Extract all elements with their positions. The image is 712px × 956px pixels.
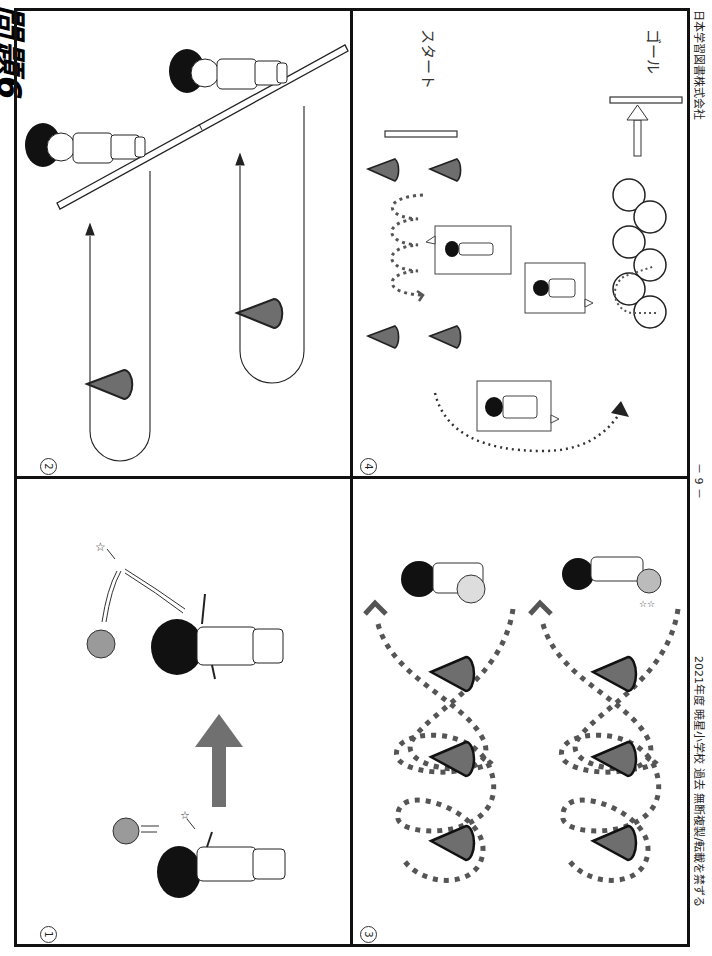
run-path-2 (236, 106, 304, 383)
cone-icon (87, 370, 132, 399)
ball-trajectory (102, 549, 185, 622)
cone-icon (368, 159, 399, 181)
zigzag-path (392, 195, 423, 295)
panel-1-illustration: ☆ ☆ (17, 479, 350, 946)
child-throwing (151, 594, 283, 679)
child-dribbling-2 (562, 557, 661, 593)
cone-icon (237, 299, 282, 328)
cone-icon (430, 159, 461, 181)
cone-icon (593, 657, 636, 691)
cone-icon (431, 657, 474, 691)
run-path-1 (86, 171, 150, 461)
panel-4-illustration: スタート (353, 11, 690, 476)
footer-page-number: － 9 － (692, 463, 708, 499)
hoops (613, 179, 666, 328)
cone-icon (430, 326, 461, 348)
child-catching (157, 832, 285, 898)
start-line (385, 131, 457, 137)
panel-2-illustration (17, 11, 350, 476)
path-arrowhead (365, 603, 386, 614)
goal-line (610, 97, 682, 103)
footer-publisher: 日本学習図書株式会社 (692, 10, 708, 120)
ball-icon (113, 818, 139, 844)
speech-bubble-crawl (525, 263, 593, 313)
goal-label: ゴール (644, 29, 662, 74)
direction-arrow (195, 714, 243, 807)
speech-bubble-roll (477, 381, 559, 431)
star-icon: ☆ (95, 540, 106, 554)
cone-icon (368, 326, 399, 348)
start-label: スタート (419, 29, 437, 89)
child-figure-1 (25, 123, 145, 167)
star-icon: ☆ (180, 809, 190, 822)
speech-bubble-zigzag (426, 226, 511, 274)
footer-copyright: 2021年度 暁星小学校 過去 無断複製/転載を禁ずる (692, 656, 708, 907)
path-arrowhead (530, 603, 551, 614)
panel-3-illustration: ☆☆ (353, 479, 690, 946)
cone-icon (593, 826, 636, 860)
ball-icon (87, 630, 115, 658)
child-dribbling-1 (401, 561, 485, 603)
star-icon: ☆☆ (639, 599, 655, 609)
goal-arrow (627, 105, 648, 156)
